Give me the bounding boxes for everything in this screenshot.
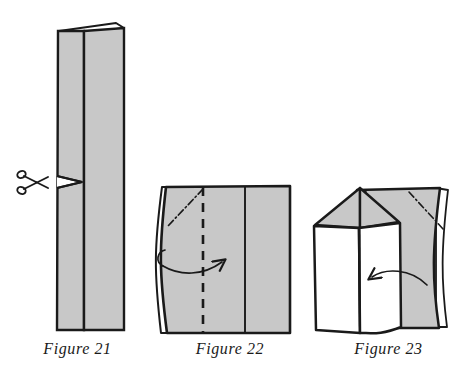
figure-23-front-right-wall <box>359 223 401 333</box>
figure-21-right-panel <box>84 28 124 330</box>
roof-left-slope <box>315 188 360 228</box>
figure-22-drawing <box>156 186 290 333</box>
figure-23-front-left-wall <box>314 226 360 333</box>
figure-23-drawing <box>314 188 448 333</box>
figure-22-front-face <box>161 186 290 333</box>
scissors-icon <box>16 170 48 196</box>
figure-plate <box>0 0 472 380</box>
instruction-illustration <box>0 0 472 380</box>
figure-23-front-center-fold <box>360 228 361 333</box>
figure-21-drawing <box>16 23 124 330</box>
